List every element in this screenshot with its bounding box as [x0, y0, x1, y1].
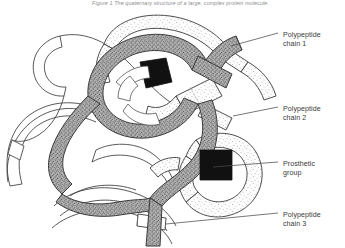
label-prosthetic-line-2: group [283, 169, 315, 178]
label-polypeptide-chain-1: Polypeptide chain 1 [283, 31, 321, 48]
label-chain-3-line-1: Polypeptide [283, 211, 321, 220]
label-polypeptide-chain-2: Polypeptide chain 2 [283, 105, 321, 122]
label-chain-1-line-1: Polypeptide [283, 31, 321, 40]
label-chain-3-line-2: chain 3 [283, 220, 321, 229]
label-chain-1-line-2: chain 1 [283, 40, 321, 49]
protein-quaternary-structure-figure: Figure 1 The quaternary structure of a l… [0, 0, 345, 248]
label-chain-2-line-1: Polypeptide [283, 105, 321, 114]
label-polypeptide-chain-3: Polypeptide chain 3 [283, 211, 321, 228]
label-chain-2-line-2: chain 2 [283, 114, 321, 123]
leader-line-chain-2 [233, 107, 278, 116]
label-prosthetic-line-1: Prosthetic [283, 160, 315, 169]
prosthetic-group-lower [200, 150, 232, 180]
label-prosthetic-group: Prosthetic group [283, 160, 315, 177]
leader-line-chain-1 [231, 33, 278, 46]
